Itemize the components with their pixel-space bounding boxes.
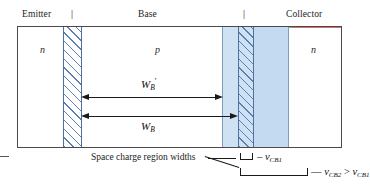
- vcb1-dash: –: [257, 151, 262, 162]
- carrier-label-emitter: n: [40, 44, 45, 55]
- device-cross-section: n p n: [17, 26, 342, 148]
- emitter-base-boundary-tick: |: [71, 9, 73, 19]
- dimension-arrowhead-left-wb: [81, 113, 89, 119]
- wide-bracket-left-tick: [240, 168, 241, 175]
- bias-relation-operator: >: [344, 166, 350, 177]
- wb-prime-symbol: W: [141, 78, 150, 90]
- page-margin-tick: [0, 156, 9, 157]
- bias-label-vcb2-relation: — vCB2 > vCB1: [311, 166, 370, 179]
- dimension-arrowhead-right-wb: [230, 113, 238, 119]
- wb-prime-mark: ': [155, 76, 157, 86]
- dimension-label-wb: WB: [141, 120, 155, 134]
- carrier-label-collector: n: [311, 44, 316, 55]
- carrier-label-base: p: [155, 44, 160, 55]
- vcb2-subscript: CB2: [329, 171, 341, 179]
- space-charge-region-widths-label: Space charge region widths: [91, 152, 196, 162]
- dimension-label-wb-prime: WB': [141, 76, 156, 92]
- base-collector-junction-hatch: [238, 27, 254, 147]
- dimension-line-wb-prime: [88, 97, 216, 98]
- wb-symbol: W: [141, 120, 150, 132]
- region-label-emitter: Emitter: [22, 9, 51, 19]
- depletion-edge-line-left: [222, 27, 223, 147]
- collector-depletion-shading-inner: [222, 27, 238, 147]
- depletion-edge-line-right: [288, 27, 289, 147]
- region-label-collector: Collector: [286, 9, 322, 19]
- emitter-base-junction-hatch: [63, 27, 82, 147]
- base-collector-boundary-tick: |: [243, 9, 245, 19]
- region-label-base: Base: [138, 9, 157, 19]
- dimension-arrowhead-right-wb-prime: [215, 94, 223, 100]
- wb-subscript: B: [150, 125, 155, 134]
- vcb2-dash: —: [311, 166, 322, 177]
- bias-label-vcb1: – vCB1: [257, 151, 282, 164]
- edge-accent-red: [292, 27, 342, 28]
- vcb1-subscript: CB1: [270, 156, 282, 164]
- dimension-arrowhead-left-wb-prime: [81, 94, 89, 100]
- vcb1-compare-subscript: CB1: [357, 171, 369, 179]
- dimension-line-wb: [88, 116, 231, 117]
- wide-bracket-base: [240, 175, 308, 176]
- wide-bracket-right-tick: [307, 168, 308, 175]
- small-bracket-base: [240, 159, 253, 160]
- small-bracket-right-tick: [252, 153, 253, 159]
